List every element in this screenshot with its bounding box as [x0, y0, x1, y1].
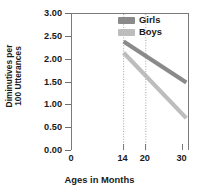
- plot-area: GirlsBoys: [71, 13, 189, 150]
- legend-label: Boys: [139, 27, 162, 36]
- y-axis-tick-label: 0.50: [28, 122, 62, 132]
- y-axis-tick-label: 2.50: [28, 31, 62, 41]
- legend-item-girls: Girls: [118, 15, 162, 25]
- y-axis-label: Diminutives per 100 Utterances: [1, 11, 27, 141]
- x-axis-tick-mark: [182, 144, 183, 150]
- x-axis-tick-label: 14: [118, 153, 128, 163]
- chart-figure: Diminutives per 100 Utterances 0.000.501…: [0, 0, 199, 196]
- legend-label: Girls: [139, 15, 160, 24]
- x-axis-tick-mark: [145, 144, 146, 150]
- chart-legend: GirlsBoys: [118, 15, 162, 37]
- legend-item-boys: Boys: [118, 27, 162, 37]
- y-axis-label-line2: 100 Utterances: [14, 46, 23, 106]
- y-axis-tick-label: 1.00: [28, 99, 62, 109]
- x-axis-label: Ages in Months: [0, 174, 199, 185]
- x-axis-tick-label: 30: [177, 153, 187, 163]
- y-axis-tick-label: 1.50: [28, 77, 62, 87]
- x-axis-tick-label: 20: [140, 153, 150, 163]
- x-axis-tick-label: 0: [68, 153, 73, 163]
- legend-swatch-icon: [118, 29, 135, 36]
- y-axis-tick-labels: 0.000.501.001.502.002.503.00: [28, 0, 62, 196]
- y-axis-tick-label: 3.00: [28, 8, 62, 18]
- y-axis-tick-label: 2.00: [28, 54, 62, 64]
- legend-swatch-icon: [118, 17, 135, 24]
- x-axis-tick-mark: [123, 144, 124, 150]
- x-axis-tick-labels: 0142030: [0, 150, 199, 164]
